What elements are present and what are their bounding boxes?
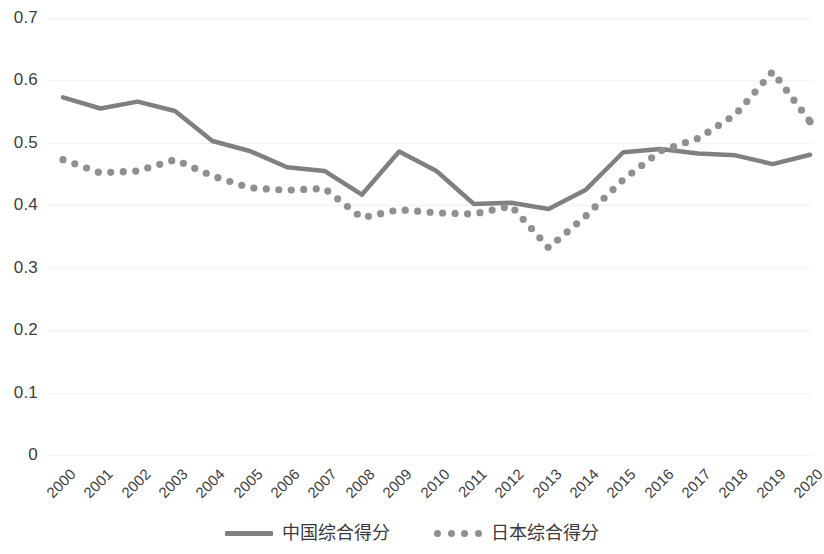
y-tick-label: 0.2 <box>0 321 38 338</box>
x-tick-label: 2019 <box>748 465 788 505</box>
y-tick-label: 0.3 <box>0 259 38 276</box>
x-tick-label: 2011 <box>450 465 490 505</box>
x-tick-label: 2001 <box>76 465 116 505</box>
y-tick-label: 0.5 <box>0 134 38 151</box>
x-tick-label: 2008 <box>338 465 378 505</box>
solid-line-swatch-icon <box>225 531 273 536</box>
x-tick-label: 2015 <box>599 465 639 505</box>
y-tick-label: 0.4 <box>0 196 38 213</box>
legend-item-japan[interactable]: 日本综合得分 <box>434 524 599 542</box>
y-tick-label: 0.7 <box>0 9 38 26</box>
legend-label-china: 中国综合得分 <box>282 524 390 542</box>
x-tick-label: 2016 <box>636 465 676 505</box>
x-tick-label: 2005 <box>225 465 265 505</box>
y-tick-label: 0.6 <box>0 71 38 88</box>
x-tick-label: 2013 <box>524 465 564 505</box>
y-tick-label: 0.1 <box>0 384 38 401</box>
x-tick-label: 2014 <box>562 465 602 505</box>
chart-legend: 中国综合得分 日本综合得分 <box>0 524 824 542</box>
series-dots-japan <box>59 70 813 251</box>
x-tick-label: 2003 <box>151 465 191 505</box>
series-line-china <box>63 97 810 209</box>
legend-label-japan: 日本综合得分 <box>491 524 599 542</box>
y-tick-label: 0 <box>0 446 38 463</box>
x-tick-label: 2006 <box>263 465 303 505</box>
x-tick-label: 2007 <box>300 465 340 505</box>
x-tick-label: 2000 <box>39 465 79 505</box>
x-tick-label: 2018 <box>711 465 751 505</box>
x-tick-label: 2020 <box>786 465 824 505</box>
line-chart: 0.70.60.50.40.30.20.10 20002001200220032… <box>0 0 824 554</box>
x-tick-label: 2002 <box>113 465 153 505</box>
x-tick-label: 2017 <box>674 465 714 505</box>
x-tick-label: 2010 <box>412 465 452 505</box>
dotted-line-swatch-icon <box>434 530 482 537</box>
plot-area <box>47 18 812 455</box>
legend-item-china[interactable]: 中国综合得分 <box>225 524 390 542</box>
x-tick-label: 2012 <box>487 465 527 505</box>
x-tick-label: 2009 <box>375 465 415 505</box>
x-tick-label: 2004 <box>188 465 228 505</box>
gridline <box>47 455 812 456</box>
series-layer <box>47 18 812 455</box>
